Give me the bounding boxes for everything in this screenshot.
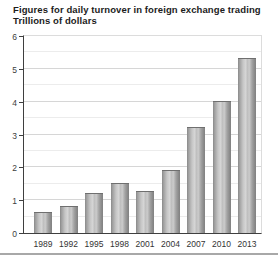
bar-1989 [34,212,52,233]
bar-1998 [111,183,129,233]
y-tick-label: 4 [0,99,17,107]
bar-2007 [187,127,205,233]
plot-area: 198919921995199820012004200720102013 [23,35,262,234]
x-tick-label: 2001 [136,239,155,249]
chart-title: Figures for daily turnover in foreign ex… [13,4,261,15]
x-tick-label: 1992 [59,239,78,249]
x-tick-label: 1995 [85,239,104,249]
y-axis-labels: 0123456 [0,35,17,234]
bar-2004 [162,170,180,233]
bar-cell-2007: 2007 [187,36,205,233]
bar-cell-1989: 1989 [34,36,52,233]
x-tick-label: 1998 [110,239,129,249]
bar-cell-2010: 2010 [213,36,231,233]
bar-cell-1998: 1998 [111,36,129,233]
bar-cell-1992: 1992 [60,36,78,233]
bar-cell-2001: 2001 [136,36,154,233]
x-tick-label: 1989 [34,239,53,249]
bar-2001 [136,191,154,233]
bar-cell-2013: 2013 [238,36,256,233]
chart-subtitle: Trillions of dollars [13,15,261,26]
y-tick-label: 3 [0,132,17,140]
bar-cell-2004: 2004 [162,36,180,233]
bar-2013 [238,58,256,233]
y-tick-label: 0 [0,230,17,238]
y-tick-label: 1 [0,197,17,205]
bar-1992 [60,206,78,233]
bottom-divider-line [0,253,278,255]
x-tick-label: 2007 [187,239,206,249]
chart-title-block: Figures for daily turnover in foreign ex… [13,4,261,26]
bar-cell-1995: 1995 [85,36,103,233]
y-tick-label: 5 [0,66,17,74]
bar-2010 [213,101,231,233]
bar-1995 [85,193,103,233]
bars-container: 198919921995199820012004200720102013 [24,36,261,233]
x-tick-label: 2010 [212,239,231,249]
x-tick-label: 2004 [161,239,180,249]
y-tick-label: 2 [0,164,17,172]
x-tick-label: 2013 [238,239,257,249]
y-tick-label: 6 [0,33,17,41]
